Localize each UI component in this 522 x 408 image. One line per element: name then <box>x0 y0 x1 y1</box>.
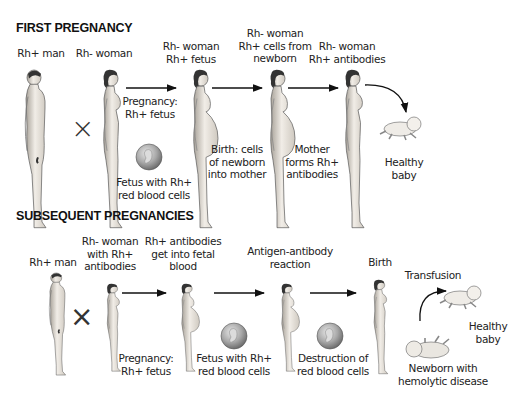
label-pregnancy-rh-fetus: Pregnancy:Rh+ fetus <box>116 352 176 377</box>
label-healthy-baby: Healthybaby <box>464 320 512 345</box>
arrow-icon <box>124 85 180 91</box>
label-fetus-rh-red-cells: Fetus with Rh+red blood cells <box>113 176 195 201</box>
pregnant-woman-figure <box>173 284 207 408</box>
cross-icon: × <box>71 112 94 145</box>
arrow-icon <box>308 290 360 296</box>
section-heading-first: FIRST PREGNANCY <box>16 21 132 35</box>
label-birth: Birth <box>360 256 400 269</box>
fetus-sphere-icon <box>317 323 345 351</box>
woman-with-antibodies-figure <box>99 284 129 408</box>
arrow-icon <box>120 290 170 296</box>
healthy-baby-figure <box>380 115 426 147</box>
arrow-icon <box>210 85 266 91</box>
cross-icon: × <box>70 300 93 333</box>
label-stage-rh-antibodies: Rh- womanRh+ antibodies <box>300 40 394 65</box>
healthy-baby-figure <box>440 284 486 316</box>
woman-after-birth-figure <box>366 280 396 408</box>
label-destruction-red-cells: Destruction ofred blood cells <box>290 352 376 377</box>
label-mother-forms-antibodies: Motherforms Rh+antibodies <box>284 143 340 181</box>
rh-positive-man-figure <box>42 273 72 407</box>
label-antigen-antibody-reaction: Antigen-antibodyreaction <box>240 245 340 270</box>
label-woman-with-antibodies: Rh- womanwith Rh+antibodies <box>80 235 140 273</box>
label-birth-cells-into-mother: Birth: cellsof newborninto mother <box>207 143 267 181</box>
newborn-hemolytic-figure <box>405 334 453 362</box>
label-stage-rh-fetus: Rh- womanRh+ fetus <box>156 40 226 65</box>
label-antibodies-into-fetal-blood: Rh+ antibodiesget into fetalblood <box>143 235 223 273</box>
label-rh-negative-woman: Rh- woman <box>73 47 135 60</box>
arrow-icon <box>286 85 342 91</box>
label-pregnancy-rh-fetus: Pregnancy:Rh+ fetus <box>118 95 182 120</box>
label-healthy-baby: Healthybaby <box>380 156 428 181</box>
label-fetus-rh-red-cells: Fetus with Rh+red blood cells <box>192 352 276 377</box>
label-rh-positive-man: Rh+ man <box>28 256 78 269</box>
curved-arrow-icon <box>365 80 415 120</box>
label-newborn-hemolytic-disease: Newborn withhemolytic disease <box>398 362 488 387</box>
pregnant-woman-reaction-figure <box>273 284 307 408</box>
fetus-sphere-icon <box>221 323 249 351</box>
arrow-icon <box>212 290 268 296</box>
label-rh-positive-man: Rh+ man <box>13 47 69 60</box>
label-transfusion: Transfusion <box>398 269 468 282</box>
fetus-sphere-icon <box>136 144 164 172</box>
section-heading-subsequent: SUBSEQUENT PREGNANCIES <box>16 209 194 223</box>
